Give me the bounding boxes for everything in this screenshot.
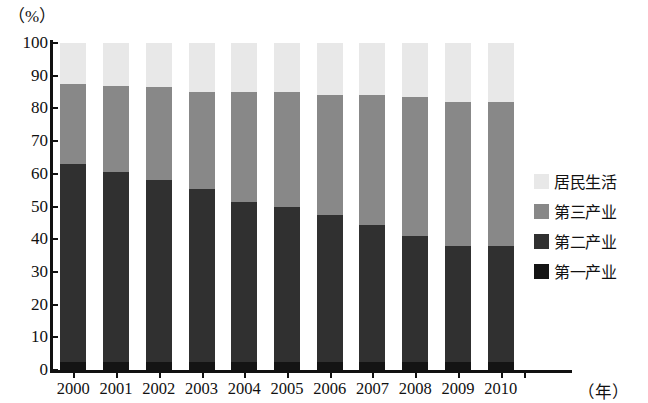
bar-segment-第三产业 xyxy=(359,95,385,224)
bar-2004 xyxy=(231,43,257,370)
bar-2008 xyxy=(402,43,428,370)
bar-segment-第二产业 xyxy=(317,215,343,362)
bar-2010 xyxy=(488,43,514,370)
x-axis-tick-label: 2004 xyxy=(223,379,265,399)
bar-segment-第三产业 xyxy=(488,102,514,246)
bar-segment-第二产业 xyxy=(60,164,86,362)
bar-segment-第一产业 xyxy=(488,362,514,370)
y-axis-tick-label: 90 xyxy=(2,67,48,84)
bar-segment-第三产业 xyxy=(189,92,215,188)
bar-segment-居民生活 xyxy=(402,43,428,97)
legend-item-第三产业: 第三产业 xyxy=(534,196,648,226)
bar-segment-第三产业 xyxy=(445,102,471,246)
y-axis-tick-label: 50 xyxy=(2,198,48,215)
bar-segment-第一产业 xyxy=(402,362,428,370)
bar-segment-第一产业 xyxy=(146,362,172,370)
x-axis-tick-label: 2010 xyxy=(480,379,522,399)
bar-2003 xyxy=(189,43,215,370)
bar-segment-第二产业 xyxy=(274,207,300,362)
x-axis-tick-label: 2007 xyxy=(351,379,393,399)
bar-segment-第三产业 xyxy=(146,87,172,180)
bar-segment-第二产业 xyxy=(445,246,471,362)
legend-label: 第三产业 xyxy=(554,199,616,223)
bar-2009 xyxy=(445,43,471,370)
legend-swatch-icon xyxy=(534,204,549,219)
x-axis-tick-label: 2008 xyxy=(394,379,436,399)
x-axis-tick xyxy=(244,373,246,378)
bar-segment-居民生活 xyxy=(60,43,86,84)
bar-segment-居民生活 xyxy=(317,43,343,95)
bar-segment-第三产业 xyxy=(317,95,343,214)
bar-segment-第二产业 xyxy=(402,236,428,362)
y-axis-tick-label: 60 xyxy=(2,165,48,182)
y-axis-tick-label: 70 xyxy=(2,132,48,149)
y-axis-tick-label: 10 xyxy=(2,328,48,345)
bar-segment-居民生活 xyxy=(146,43,172,87)
x-axis-tick xyxy=(116,373,118,378)
bar-segment-第二产业 xyxy=(488,246,514,362)
bar-segment-第一产业 xyxy=(103,362,129,370)
bar-2002 xyxy=(146,43,172,370)
x-axis-tick-label: 2003 xyxy=(181,379,223,399)
bar-segment-居民生活 xyxy=(274,43,300,92)
x-axis-tick-label: 2005 xyxy=(266,379,308,399)
y-axis-tick-label: 80 xyxy=(2,99,48,116)
x-axis-tick xyxy=(458,373,460,378)
bar-segment-第一产业 xyxy=(445,362,471,370)
x-axis-tick xyxy=(287,373,289,378)
bar-segment-居民生活 xyxy=(189,43,215,92)
y-axis-tick-label: 100 xyxy=(2,34,48,51)
legend-item-第一产业: 第一产业 xyxy=(534,256,648,286)
bar-segment-第一产业 xyxy=(231,362,257,370)
legend-label: 居民生活 xyxy=(554,169,616,193)
bar-segment-第三产业 xyxy=(274,92,300,206)
bar-2001 xyxy=(103,43,129,370)
bar-segment-第三产业 xyxy=(231,92,257,202)
bar-segment-第一产业 xyxy=(60,362,86,370)
legend-swatch-icon xyxy=(534,264,549,279)
bar-segment-居民生活 xyxy=(445,43,471,102)
bar-segment-第一产业 xyxy=(359,362,385,370)
bar-segment-第一产业 xyxy=(189,362,215,370)
bar-segment-第二产业 xyxy=(189,189,215,362)
x-axis-tick xyxy=(330,373,332,378)
y-axis-tick-labels: 0102030405060708090100 xyxy=(0,0,48,403)
bar-segment-第二产业 xyxy=(146,180,172,361)
x-axis-unit-label: （年） xyxy=(578,379,629,403)
x-axis-tick-label: 2009 xyxy=(437,379,479,399)
x-axis-tick xyxy=(73,373,75,378)
y-axis-tick-label: 40 xyxy=(2,230,48,247)
bar-segment-第三产业 xyxy=(402,97,428,236)
bar-2007 xyxy=(359,43,385,370)
legend-item-第二产业: 第二产业 xyxy=(534,226,648,256)
y-axis-tick-label: 0 xyxy=(2,361,48,378)
bar-segment-第一产业 xyxy=(274,362,300,370)
x-axis-tick-label: 2001 xyxy=(95,379,137,399)
legend-item-居民生活: 居民生活 xyxy=(534,166,648,196)
x-axis-line xyxy=(50,370,572,373)
x-axis-tick-label: 2006 xyxy=(309,379,351,399)
legend-swatch-icon xyxy=(534,234,549,249)
x-axis-tick xyxy=(202,373,204,378)
bar-segment-居民生活 xyxy=(359,43,385,95)
legend: 居民生活第三产业第二产业第一产业 xyxy=(534,166,648,286)
bar-segment-居民生活 xyxy=(231,43,257,92)
x-axis-tick xyxy=(524,373,526,378)
bar-segment-第二产业 xyxy=(359,225,385,362)
bar-segment-第三产业 xyxy=(60,84,86,164)
bar-2006 xyxy=(317,43,343,370)
legend-label: 第一产业 xyxy=(554,259,616,283)
x-axis-tick xyxy=(159,373,161,378)
bar-segment-居民生活 xyxy=(488,43,514,102)
x-axis-tick xyxy=(501,373,503,378)
bar-2000 xyxy=(60,43,86,370)
plot-area xyxy=(52,43,522,370)
x-axis-tick-label: 2002 xyxy=(138,379,180,399)
bar-segment-第二产业 xyxy=(231,202,257,362)
bar-segment-第三产业 xyxy=(103,86,129,173)
y-axis-tick-label: 20 xyxy=(2,296,48,313)
bar-2005 xyxy=(274,43,300,370)
legend-label: 第二产业 xyxy=(554,229,616,253)
x-axis-tick-label: 2000 xyxy=(52,379,94,399)
stacked-bar-chart: （%） 0102030405060708090100 2000200120022… xyxy=(0,0,648,403)
